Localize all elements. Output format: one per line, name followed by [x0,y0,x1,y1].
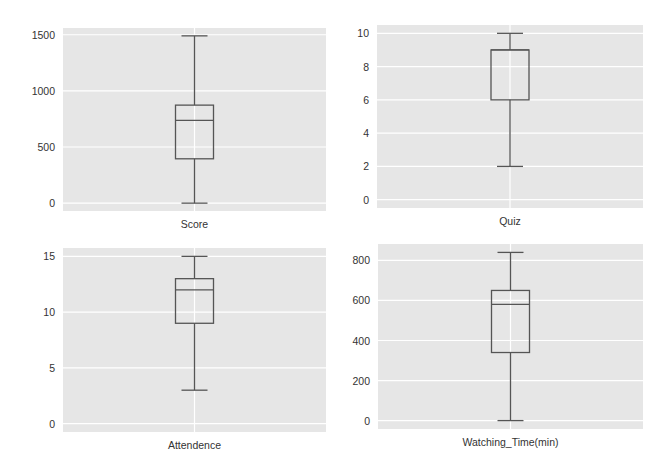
y-tick-label: 0 [49,197,55,209]
y-tick-label: 400 [352,335,370,347]
y-tick-label: 4 [363,127,369,139]
y-tick-label: 0 [363,194,369,206]
y-tick-label: 600 [352,294,370,306]
y-tick-label: 8 [363,61,369,73]
y-tick-label: 15 [43,250,55,262]
subplot-watching-time-min: 0200400600800Watching_Time(min) [352,244,643,448]
boxplot-grid: 050010001500Score0246810Quiz051015Attend… [0,0,662,470]
y-tick-label: 1500 [32,29,56,41]
y-tick-label: 200 [352,375,370,387]
y-tick-label: 0 [364,415,370,427]
x-axis-label: Watching_Time(min) [462,436,558,448]
y-tick-label: 2 [363,160,369,172]
y-tick-label: 800 [352,254,370,266]
subplot-quiz: 0246810Quiz [357,25,643,227]
subplot-attendence: 051015Attendence [43,248,326,451]
y-tick-label: 0 [49,418,55,430]
y-tick-label: 6 [363,94,369,106]
y-tick-label: 1000 [32,85,56,97]
y-tick-label: 10 [43,306,55,318]
y-tick-label: 500 [37,141,55,153]
x-axis-label: Score [181,218,209,230]
subplot-score: 050010001500Score [32,28,326,230]
y-tick-label: 10 [357,27,369,39]
x-axis-label: Attendence [168,439,221,451]
x-axis-label: Quiz [499,215,521,227]
boxplot-figure: 050010001500Score0246810Quiz051015Attend… [0,0,662,470]
y-tick-label: 5 [49,362,55,374]
